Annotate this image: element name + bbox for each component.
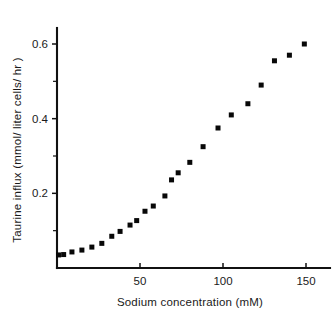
data-point-marker xyxy=(89,245,94,250)
y-axis-title: Taurine influx (mmol/ liter cells/ hr ) xyxy=(11,57,23,242)
data-point-marker xyxy=(79,248,84,253)
axes xyxy=(57,28,330,268)
data-point-marker xyxy=(259,83,264,88)
figure-container: 0.20.40.650100150 Taurine influx (mmol/ … xyxy=(0,0,336,317)
data-points xyxy=(56,42,307,258)
data-point-marker xyxy=(229,112,234,117)
axis-ticks xyxy=(52,44,306,268)
data-point-marker xyxy=(216,126,221,131)
data-point-marker xyxy=(99,241,104,246)
y-tick-label: 0.4 xyxy=(32,113,49,125)
data-point-marker xyxy=(69,249,74,254)
data-point-marker xyxy=(302,42,307,47)
axis-tick-labels: 0.20.40.650100150 xyxy=(32,38,316,287)
data-point-marker xyxy=(134,218,139,223)
data-point-marker xyxy=(245,101,250,106)
x-tick-label: 100 xyxy=(213,275,232,287)
x-tick-label: 50 xyxy=(134,275,147,287)
data-point-marker xyxy=(151,204,156,209)
data-point-marker xyxy=(142,209,147,214)
y-tick-label: 0.6 xyxy=(32,38,48,50)
data-point-marker xyxy=(201,144,206,149)
y-tick-label: 0.2 xyxy=(32,187,48,199)
data-point-marker xyxy=(176,170,181,175)
data-point-marker xyxy=(109,234,114,239)
x-axis-title: Sodium concentration (mM) xyxy=(117,296,263,308)
data-point-marker xyxy=(162,193,167,198)
data-point-marker xyxy=(118,229,123,234)
data-point-marker xyxy=(61,252,66,257)
scatter-plot: 0.20.40.650100150 Taurine influx (mmol/ … xyxy=(0,0,336,317)
x-tick-label: 150 xyxy=(296,275,315,287)
data-point-marker xyxy=(287,53,292,58)
data-point-marker xyxy=(272,58,277,63)
data-point-marker xyxy=(187,160,192,165)
data-point-marker xyxy=(56,252,61,257)
data-point-marker xyxy=(169,177,174,182)
data-point-marker xyxy=(128,223,133,228)
